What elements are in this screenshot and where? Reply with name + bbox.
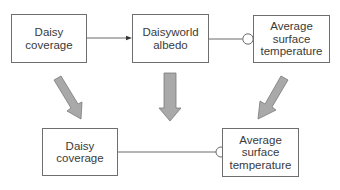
daisyworld-feedback-diagram: Daisy coverage Daisyworld albedo Average…	[0, 0, 340, 190]
circle-terminator-icon	[243, 34, 253, 44]
label-line: surface	[229, 146, 291, 159]
negative-link-circle-bottom	[117, 147, 226, 157]
label-line: coverage	[25, 39, 72, 52]
label-line: temperature	[229, 159, 291, 172]
box-avg-surface-temp-bottom: Average surface temperature	[222, 128, 299, 177]
label-line: Daisy	[56, 140, 103, 153]
label-line: albedo	[142, 39, 198, 52]
label-line: temperature	[260, 45, 322, 58]
box-daisy-coverage-bottom: Daisy coverage	[42, 128, 118, 176]
label-line: Average	[229, 134, 291, 147]
box-daisyworld-albedo: Daisyworld albedo	[132, 14, 209, 63]
label-line: Average	[260, 20, 322, 33]
label-line: surface	[260, 33, 322, 46]
positive-link-arrow	[86, 36, 132, 40]
label-line: coverage	[56, 152, 103, 165]
block-arrow-middle-icon	[159, 73, 181, 121]
block-arrow-left-icon	[54, 76, 82, 119]
label-line: Daisy	[25, 26, 72, 39]
box-avg-surface-temp-top: Average surface temperature	[253, 15, 330, 63]
block-arrow-right-icon	[258, 76, 288, 119]
label-line: Daisyworld	[142, 26, 198, 39]
box-daisy-coverage-top: Daisy coverage	[11, 14, 87, 63]
negative-link-circle-top	[208, 34, 253, 44]
